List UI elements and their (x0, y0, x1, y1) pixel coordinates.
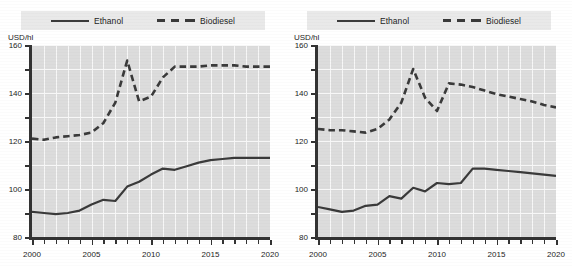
legend-label-biodiesel: Biodiesel (486, 16, 521, 26)
x-axis-label: 2015 (488, 250, 506, 259)
legend-label-biodiesel: Biodiesel (200, 16, 235, 26)
y-axis-label: 100 (9, 185, 22, 194)
y-axis-tick: 100 (311, 117, 315, 119)
x-axis-tick-major (378, 240, 380, 245)
y-axis-tick: 60 (25, 165, 29, 167)
x-axis-tick-minor (473, 240, 474, 244)
legend-item-ethanol[interactable]: Ethanol (337, 16, 409, 26)
legend-item-biodiesel[interactable]: Biodiesel (443, 16, 521, 26)
x-axis-tick-minor (246, 240, 247, 244)
y-axis-label: 160 (9, 41, 22, 50)
x-axis-label: 2005 (369, 250, 387, 259)
x-axis-tick-major (270, 240, 272, 245)
x-axis-tick-minor (139, 240, 140, 244)
plot-area-left (32, 45, 270, 237)
y-axis-label: 80 (299, 233, 308, 242)
x-axis-tick-minor (425, 240, 426, 244)
y-axis-right: 020406080100120140160 (315, 45, 318, 238)
legend-item-biodiesel[interactable]: Biodiesel (157, 16, 235, 26)
y-axis-tick: 160 (25, 45, 29, 47)
y-axis-tick: 120 (25, 93, 29, 95)
legend-label-ethanol: Ethanol (380, 16, 409, 26)
chart-panel-left: Ethanol Biodiesel USD/hl 020406080100120… (0, 0, 286, 266)
figure-titles (0, 0, 572, 7)
x-axis-tick-minor (199, 240, 200, 244)
x-axis-tick-major (556, 240, 558, 245)
x-axis-tick-minor (103, 240, 104, 244)
y-axis-left: 020406080100120140160 (29, 45, 32, 238)
chart-panel-right: Ethanol Biodiesel USD/hl 020406080100120… (286, 0, 572, 266)
plot-lines-right (318, 45, 556, 237)
x-axis-right (315, 237, 556, 240)
series-line-ethanol (318, 169, 556, 212)
y-axis-tick: 40 (25, 189, 29, 191)
x-axis-tick-minor (520, 240, 521, 244)
series-line-biodiesel (32, 61, 270, 140)
x-axis-label: 2015 (202, 250, 220, 259)
x-axis-tick-minor (234, 240, 235, 244)
y-axis-tick: 100 (25, 117, 29, 119)
legend-label-ethanol: Ethanol (94, 16, 123, 26)
biodiesel-line-swatch-icon (157, 19, 195, 21)
y-axis-tick: 140 (311, 69, 315, 71)
y-axis-tick: 140 (25, 69, 29, 71)
series-line-ethanol (32, 158, 270, 214)
x-axis-label: 2000 (23, 250, 41, 259)
legend-right: Ethanol Biodiesel (307, 11, 551, 30)
y-axis-tick: 40 (311, 189, 315, 191)
x-axis-tick-minor (342, 240, 343, 244)
y-axis-tick: 120 (311, 93, 315, 95)
x-axis-tick-minor (544, 240, 545, 244)
x-axis-tick-major (32, 240, 34, 245)
x-axis-tick-major (437, 240, 439, 245)
x-axis-tick-major (497, 240, 499, 245)
y-axis-tick: 160 (311, 45, 315, 47)
x-axis-tick-minor (163, 240, 164, 244)
y-axis-label: 140 (295, 89, 308, 98)
plot-area-right (318, 45, 556, 237)
y-axis-tick: 20 (25, 213, 29, 215)
legend-left: Ethanol Biodiesel (21, 11, 265, 30)
x-axis-tick-minor (115, 240, 116, 244)
legend-item-ethanol[interactable]: Ethanol (51, 16, 123, 26)
y-axis-tick: 60 (311, 165, 315, 167)
x-axis-tick-minor (532, 240, 533, 244)
x-axis-tick-minor (389, 240, 390, 244)
y-axis-tick: 80 (311, 141, 315, 143)
x-axis-left (29, 237, 270, 240)
y-axis-tick: 80 (25, 141, 29, 143)
x-axis-label: 2020 (547, 250, 565, 259)
x-axis-tick-major (211, 240, 213, 245)
biodiesel-line-swatch-icon (443, 19, 481, 21)
ethanol-line-swatch-icon (51, 20, 89, 22)
x-axis-tick-minor (187, 240, 188, 244)
x-axis-label: 2000 (309, 250, 327, 259)
x-axis-label: 2010 (142, 250, 160, 259)
y-axis-tick: 20 (311, 213, 315, 215)
x-axis-tick-major (92, 240, 94, 245)
x-axis-tick-minor (56, 240, 57, 244)
figure-root: Ethanol Biodiesel USD/hl 020406080100120… (0, 0, 572, 266)
x-axis-tick-minor (508, 240, 509, 244)
x-axis-label: 2010 (428, 250, 446, 259)
y-axis-label: 140 (9, 89, 22, 98)
x-axis-tick-minor (461, 240, 462, 244)
x-axis-tick-minor (80, 240, 81, 244)
x-axis-tick-minor (68, 240, 69, 244)
x-axis-tick-major (151, 240, 153, 245)
x-axis-tick-minor (175, 240, 176, 244)
x-axis-tick-minor (366, 240, 367, 244)
x-axis-tick-minor (222, 240, 223, 244)
x-axis-tick-minor (127, 240, 128, 244)
x-axis-tick-major (318, 240, 320, 245)
y-axis-label: 120 (9, 137, 22, 146)
x-axis-tick-minor (413, 240, 414, 244)
y-axis-label: 160 (295, 41, 308, 50)
ethanol-line-swatch-icon (337, 20, 375, 22)
y-axis-label: 80 (13, 233, 22, 242)
x-axis-tick-minor (354, 240, 355, 244)
y-axis-label: 100 (295, 185, 308, 194)
x-axis-label: 2020 (261, 250, 279, 259)
plot-lines-left (32, 45, 270, 237)
x-axis-tick-minor (258, 240, 259, 244)
